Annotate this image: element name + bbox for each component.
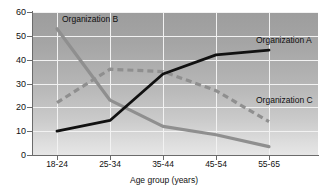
series-label-organization-c: Organization C	[256, 96, 313, 105]
series-label-organization-b: Organization B	[62, 15, 118, 24]
series-line-organization-c	[57, 69, 269, 121]
series-line-organization-b	[57, 29, 269, 147]
line-chart: 60 50 40 30 20 10 0 18-24 25-34 35-44 45…	[0, 0, 328, 195]
series-line-organization-a	[57, 50, 269, 131]
series-label-organization-a: Organization A	[256, 36, 312, 45]
